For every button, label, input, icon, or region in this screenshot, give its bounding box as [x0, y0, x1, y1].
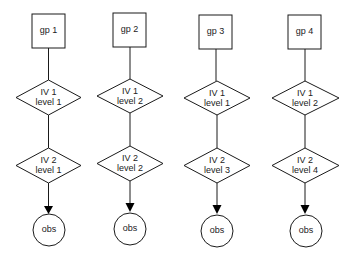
iv2-level-label: level 4 [292, 165, 318, 175]
iv2-level-label: level 2 [117, 163, 143, 173]
iv2-label: IV 2 [122, 153, 138, 163]
arrow-down-icon [126, 203, 135, 212]
obs-label: obs [42, 224, 57, 234]
obs-label: obs [299, 225, 314, 235]
iv2-label: IV 2 [40, 155, 56, 165]
column-gp1: gp 1 IV 1 level 1 IV 2 level 1 obs [16, 14, 81, 246]
iv2-level-label: level 1 [35, 165, 61, 175]
iv1-level-label: level 2 [292, 98, 318, 108]
iv1-label: IV 1 [209, 88, 225, 98]
group-label: gp 2 [121, 24, 139, 34]
iv2-label: IV 2 [209, 155, 225, 165]
iv1-label: IV 1 [297, 88, 313, 98]
group-label: gp 1 [40, 25, 58, 35]
obs-label: obs [210, 225, 225, 235]
iv1-level-label: level 2 [117, 96, 143, 106]
obs-label: obs [123, 223, 138, 233]
arrow-down-icon [301, 205, 310, 214]
iv1-label: IV 1 [122, 86, 138, 96]
iv1-level-label: level 1 [204, 98, 230, 108]
flowchart-diagram: gp 1 IV 1 level 1 IV 2 level 1 obs gp 2 … [0, 0, 357, 262]
column-gp4: gp 4 IV 1 level 2 IV 2 level 4 obs [272, 15, 339, 247]
group-label: gp 4 [296, 26, 314, 36]
column-gp3: gp 3 IV 1 level 1 IV 2 level 3 obs [184, 15, 250, 247]
column-gp2: gp 2 IV 1 level 2 IV 2 level 2 obs [97, 13, 163, 245]
group-label: gp 3 [207, 26, 225, 36]
arrow-down-icon [44, 206, 53, 214]
iv2-label: IV 2 [297, 155, 313, 165]
arrow-down-icon [213, 205, 222, 214]
iv1-level-label: level 1 [35, 97, 61, 107]
iv2-level-label: level 3 [204, 165, 230, 175]
iv1-label: IV 1 [40, 87, 56, 97]
